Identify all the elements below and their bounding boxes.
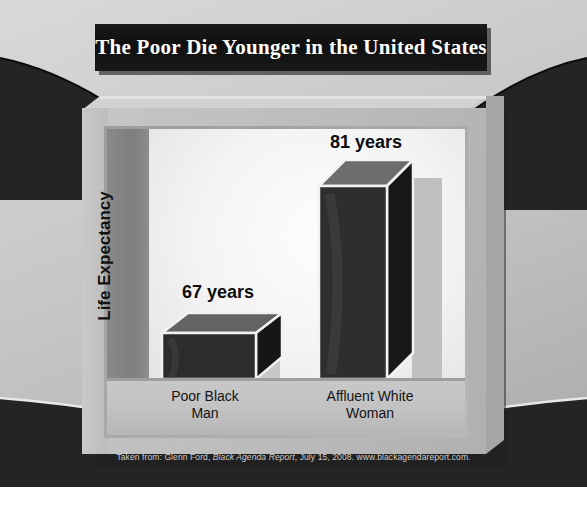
bottom-white-strip (0, 487, 587, 506)
category-label-line2: Woman (290, 405, 450, 422)
value-label-poor-black-man: 67 years (182, 282, 254, 303)
frame-right-bevel (486, 96, 504, 454)
citation-source-title: Black Agenda Report (213, 452, 295, 462)
source-citation: Taken from: Glenn Ford, Black Agenda Rep… (0, 452, 587, 462)
category-label-line1: Poor Black (140, 388, 270, 405)
category-label-line1: Affluent White (290, 388, 450, 405)
citation-prefix: Taken from: Glenn Ford, (116, 452, 212, 462)
value-label-affluent-white-woman: 81 years (330, 132, 402, 153)
category-label-poor-black-man: Poor Black Man (140, 388, 270, 422)
y-axis-label: Life Expectancy (95, 171, 115, 341)
title-banner: The Poor Die Younger in the United State… (95, 24, 487, 71)
bar-poor-black-man[interactable] (160, 311, 285, 381)
chart-3d-container: Life Expectancy 67 years (82, 96, 506, 466)
poster-canvas: The Poor Die Younger in the United State… (0, 0, 587, 506)
chart-floor-edge (107, 378, 465, 381)
page-title: The Poor Die Younger in the United State… (95, 35, 487, 60)
citation-suffix: , July 15, 2008. www.blackagendareport.c… (295, 452, 471, 462)
category-label-affluent-white-woman: Affluent White Woman (290, 388, 450, 422)
bar-affluent-white-woman[interactable] (317, 158, 427, 381)
category-label-line2: Man (140, 405, 270, 422)
